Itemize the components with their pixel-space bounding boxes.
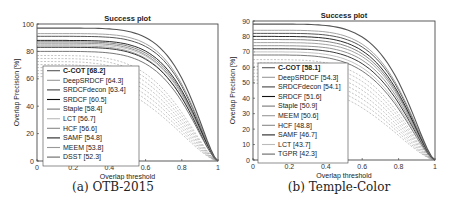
x-tick-label: 0.8: [177, 164, 187, 171]
success-plot-temple-color: Success plot010203040506070809000.20.40.…: [226, 0, 452, 180]
chart-title: Success plot: [104, 14, 151, 23]
x-tick-label: 0.4: [321, 163, 331, 170]
legend-entry: DeepSRDCF [64.3]: [63, 77, 123, 85]
x-axis-label: Overlap threshold: [316, 172, 371, 180]
x-tick-label: 1: [433, 163, 437, 170]
legend-entry: DeepSRDCF [54.3]: [278, 74, 338, 82]
legend-entry: DSST [52.3]: [63, 153, 101, 161]
y-tick-label: 90: [242, 18, 250, 25]
caption-otb2015: (a) OTB-2015: [0, 180, 226, 194]
x-tick-label: 0.2: [285, 163, 295, 170]
legend-entry: TGPR [42.3]: [278, 150, 317, 158]
legend-entry: SRDCFdecon [54.1]: [278, 83, 341, 91]
legend-entry: MEEM [50.6]: [278, 112, 319, 120]
chart-title: Success plot: [321, 11, 368, 20]
y-tick-label: 0: [30, 158, 34, 165]
y-tick-label: 40: [242, 95, 250, 102]
chart-panel-otb2015: Success plot02040608010000.20.40.60.81Ov…: [0, 0, 226, 212]
legend-entry: HCF [48.8]: [278, 122, 312, 130]
x-tick-label: 1: [216, 164, 220, 171]
legend-entry: C-COT [68.2]: [63, 67, 105, 75]
legend-entry: Staple [50.9]: [278, 102, 317, 110]
y-tick-label: 20: [26, 130, 34, 137]
caption-temple-color: (b) Temple-Color: [226, 180, 452, 194]
y-tick-label: 70: [242, 48, 250, 55]
y-tick-label: 40: [26, 103, 34, 110]
y-tick-label: 0: [246, 157, 250, 164]
y-tick-label: 60: [242, 64, 250, 71]
y-axis-label: Overlap Precision [%]: [229, 57, 237, 124]
success-plot-otb2015: Success plot02040608010000.20.40.60.81Ov…: [0, 0, 226, 180]
legend-entry: SAMF [46.7]: [278, 131, 317, 139]
legend-entry: MEEM [53.8]: [63, 144, 104, 152]
x-axis-label: Overlap threshold: [100, 173, 155, 180]
legend-entry: LCT [56.7]: [63, 115, 96, 123]
x-tick-label: 0.8: [394, 163, 404, 170]
y-axis-label: Overlap Precision [%]: [13, 59, 21, 126]
legend-entry: C-COT [58.1]: [278, 64, 320, 72]
y-tick-label: 100: [22, 21, 34, 28]
legend-entry: Staple [58.4]: [63, 105, 102, 113]
y-tick-label: 60: [26, 75, 34, 82]
y-tick-label: 80: [26, 48, 34, 55]
y-tick-label: 50: [242, 79, 250, 86]
legend-entry: SRDCFdecon [63.4]: [63, 86, 126, 94]
legend-entry: HCF [56.6]: [63, 125, 97, 133]
y-tick-label: 20: [242, 126, 250, 133]
x-tick-label: 0.6: [357, 163, 367, 170]
y-tick-label: 10: [242, 141, 250, 148]
legend-entry: SRDCF [60.5]: [63, 96, 107, 104]
legend-entry: SAMF [54.8]: [63, 134, 102, 142]
x-tick-label: 0: [251, 163, 255, 170]
legend-entry: SRDCF [51.6]: [278, 93, 322, 101]
x-tick-label: 0: [35, 164, 39, 171]
chart-panel-temple-color: Success plot010203040506070809000.20.40.…: [226, 0, 452, 212]
x-tick-label: 0.6: [141, 164, 151, 171]
y-tick-label: 30: [242, 110, 250, 117]
y-tick-label: 80: [242, 33, 250, 40]
legend-entry: LCT [43.7]: [278, 141, 311, 149]
